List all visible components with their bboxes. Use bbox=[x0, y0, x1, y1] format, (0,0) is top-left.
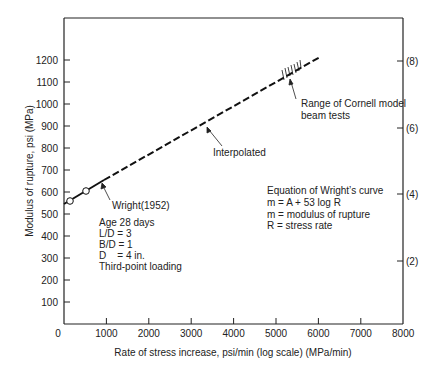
y-axis-label: Modulus of rupture, psi (MPa) bbox=[24, 105, 35, 237]
wright-curve bbox=[64, 57, 320, 204]
equation-formula: m = A + 53 log R bbox=[267, 197, 341, 208]
x-tick-label: 2000 bbox=[138, 328, 161, 339]
cond-d: D = 4 in. bbox=[99, 250, 145, 261]
x-tick-label: 0 bbox=[55, 328, 61, 339]
label-cornell-2: beam tests bbox=[301, 110, 350, 121]
y-tick-label: 600 bbox=[41, 187, 58, 198]
cond-ld: L/D = 3 bbox=[99, 228, 132, 239]
x-tick-label: 3000 bbox=[180, 328, 203, 339]
y-tick-label: 800 bbox=[41, 143, 58, 154]
y-tick-label: 400 bbox=[41, 231, 58, 242]
x-tick-label: 5000 bbox=[265, 328, 288, 339]
y2-tick-label: (2) bbox=[406, 256, 418, 267]
y-tick-label: 1100 bbox=[36, 77, 58, 88]
chart: 100200300400500600700800900100011001200 … bbox=[0, 0, 436, 376]
y-tick-label: 1000 bbox=[36, 99, 59, 110]
y-tick-label: 1200 bbox=[36, 55, 59, 66]
y2-tick-label: (4) bbox=[406, 189, 418, 200]
y-axis-ticks: 100200300400500600700800900100011001200 bbox=[36, 55, 70, 308]
x-axis-label: Rate of stress increase, psi/min (log sc… bbox=[114, 347, 351, 358]
y-tick-label: 300 bbox=[41, 253, 58, 264]
y-tick-label: 700 bbox=[41, 165, 58, 176]
cond-bd: B/D = 1 bbox=[99, 239, 133, 250]
label-wright: Wright(1952) bbox=[112, 200, 170, 211]
x-tick-label: 1000 bbox=[95, 328, 118, 339]
y2-axis-ticks: (2)(4)(6)(8) bbox=[397, 56, 418, 267]
label-cornell-1: Range of Cornell model bbox=[301, 98, 406, 109]
equation-r: R = stress rate bbox=[267, 220, 333, 231]
y-tick-label: 900 bbox=[41, 121, 58, 132]
x-tick-label: 4000 bbox=[222, 328, 245, 339]
equation-m: m = modulus of rupture bbox=[267, 209, 371, 220]
label-interpolated: Interpolated bbox=[213, 147, 266, 158]
y-tick-label: 200 bbox=[41, 275, 58, 286]
cond-age: Age 28 days bbox=[99, 217, 155, 228]
annotation-arrows bbox=[101, 79, 296, 200]
y2-tick-label: (6) bbox=[406, 123, 418, 134]
plot-frame bbox=[64, 18, 403, 324]
x-tick-label: 8000 bbox=[392, 328, 415, 339]
y-tick-label: 500 bbox=[41, 209, 58, 220]
x-tick-label: 7000 bbox=[350, 328, 373, 339]
x-tick-label: 6000 bbox=[307, 328, 330, 339]
equation-title: Equation of Wright’s curve bbox=[267, 185, 384, 196]
y-tick-label: 100 bbox=[41, 297, 58, 308]
y2-tick-label: (8) bbox=[406, 56, 418, 67]
cond-loading: Third-point loading bbox=[99, 261, 182, 272]
x-axis-ticks: 010002000300040005000600070008000 bbox=[55, 318, 415, 339]
